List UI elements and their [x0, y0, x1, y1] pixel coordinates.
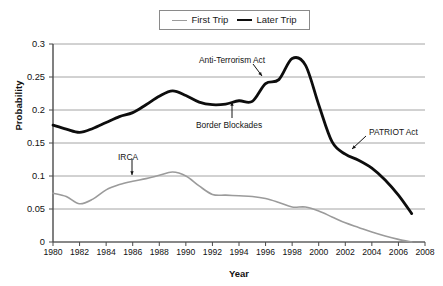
annotation-label: Anti-Terrorism Act [199, 56, 265, 64]
series-line-first-trip [53, 172, 412, 242]
x-axis-label: Year [53, 268, 425, 279]
x-tick-label: 2008 [408, 248, 442, 257]
chart-figure: First Trip Later Trip Probability Year 0… [0, 0, 443, 286]
annotation-label: Border Blockades [196, 121, 262, 129]
y-tick-label: 0.3 [5, 40, 45, 49]
series-lines [53, 57, 412, 242]
annotation-label: IRCA [118, 153, 138, 161]
y-tick-label: 0.2 [5, 106, 45, 115]
annotation-label: PATRIOT Act [369, 128, 418, 136]
x-tick-marks [53, 242, 425, 246]
legend-swatch-first-trip [172, 20, 187, 21]
y-tick-label: 0.1 [5, 172, 45, 181]
chart-legend: First Trip Later Trip [159, 10, 310, 30]
legend-entry-later-trip: Later Trip [237, 15, 296, 25]
gridlines [53, 44, 425, 242]
legend-entry-first-trip: First Trip [172, 15, 228, 25]
chart-canvas [0, 0, 443, 286]
y-tick-label: 0 [5, 238, 45, 247]
y-tick-label: 0.25 [5, 73, 45, 82]
y-tick-label: 0.05 [5, 205, 45, 214]
annotation-arrowhead [130, 171, 133, 175]
legend-swatch-later-trip [237, 19, 252, 21]
legend-label-later-trip: Later Trip [256, 15, 296, 25]
y-tick-label: 0.15 [5, 139, 45, 148]
legend-label-first-trip: First Trip [191, 15, 228, 25]
